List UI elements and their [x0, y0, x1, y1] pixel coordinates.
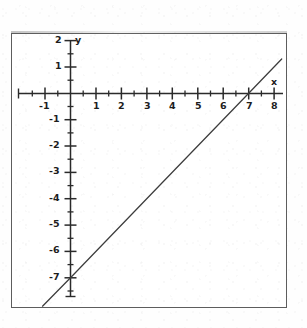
x-tick-label-6: 6 — [220, 101, 227, 111]
y-tick-label--1: -1 — [49, 114, 60, 124]
y-tick-label--4: -4 — [49, 193, 60, 203]
x-tick-label-3: 3 — [144, 101, 151, 111]
x-tick-label-4: 4 — [169, 101, 176, 111]
y-tick-label--7: -7 — [49, 272, 60, 282]
x-tick-label-1: 1 — [93, 101, 100, 111]
x-tick-label-7: 7 — [246, 101, 253, 111]
x-axis-label: x — [271, 77, 277, 87]
y-tick-label--6: -6 — [49, 245, 60, 255]
x-tick-label-5: 5 — [195, 101, 202, 111]
y-tick-label--5: -5 — [49, 219, 60, 229]
y-tick-label--3: -3 — [49, 166, 60, 176]
y-tick-label--2: -2 — [49, 140, 60, 150]
y-tick-label-1: 1 — [55, 61, 62, 71]
graph-figure: -1 1 2 3 4 5 6 7 8 2 1 -1 -2 -3 -4 -5 -6… — [0, 0, 307, 328]
x-tick-label-8: 8 — [271, 101, 278, 111]
y-tick-label-2: 2 — [55, 35, 62, 45]
x-tick-label--1: -1 — [39, 101, 50, 111]
x-tick-label-2: 2 — [118, 101, 125, 111]
y-axis-label: y — [75, 35, 81, 45]
